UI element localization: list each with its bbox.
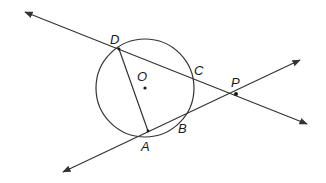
point-D	[118, 48, 121, 51]
label-C: C	[194, 63, 204, 78]
center-point-O	[143, 86, 146, 89]
geometry-diagram: D C P B A O	[0, 0, 326, 183]
label-D: D	[110, 32, 119, 47]
point-P	[234, 92, 238, 96]
line-DCP	[25, 12, 307, 124]
label-A: A	[140, 139, 150, 154]
label-O: O	[137, 69, 147, 84]
chord-DA	[119, 49, 148, 131]
label-B: B	[178, 121, 187, 136]
label-P: P	[231, 75, 240, 90]
line-ABP	[63, 60, 300, 172]
point-A	[147, 130, 150, 133]
